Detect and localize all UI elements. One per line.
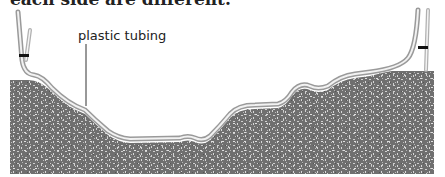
left-clamp-icon bbox=[19, 54, 29, 57]
plastic-tubing-label: plastic tubing bbox=[78, 28, 166, 43]
tubing-diagram bbox=[0, 0, 445, 177]
right-clamp-icon bbox=[418, 46, 428, 49]
